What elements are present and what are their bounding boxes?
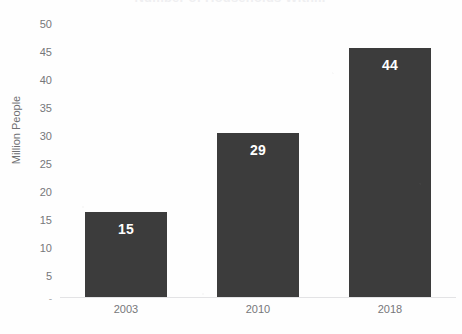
x-tick-label-2018: 2018	[324, 303, 456, 315]
y-tick-label: 40	[14, 75, 52, 86]
y-tick-label: 20	[14, 187, 52, 198]
bar-group-2010: 29	[192, 14, 324, 297]
x-axis-baseline	[60, 297, 456, 298]
y-tick-label: 15	[14, 215, 52, 226]
chart-title: Number of Households With...	[60, 0, 400, 5]
bar-value-label: 29	[217, 142, 299, 158]
y-tick-label: 35	[14, 103, 52, 114]
y-tick-label-zero: -	[14, 293, 52, 304]
y-tick-label: 45	[14, 47, 52, 58]
y-tick-label: 50	[14, 19, 52, 30]
plot-area: 15 29 44	[60, 14, 456, 298]
bar-2010[interactable]: 29	[217, 133, 299, 297]
bar-group-2018: 44	[324, 14, 456, 297]
x-axis-tick-labels: 2003 2010 2018	[60, 303, 456, 323]
y-tick-label: 10	[14, 243, 52, 254]
bar-2018[interactable]: 44	[349, 48, 431, 297]
bar-2003[interactable]: 15	[85, 212, 167, 297]
y-axis-tick-labels: 50 45 40 35 30 25 20 15 10 5 -	[0, 0, 52, 334]
y-tick-label: 5	[14, 271, 52, 282]
y-tick-label: 30	[14, 131, 52, 142]
bar-value-label: 44	[349, 57, 431, 73]
bar-chart: Number of Households With... Million Peo…	[0, 0, 462, 334]
bar-group-2003: 15	[60, 14, 192, 297]
x-tick-label-2003: 2003	[60, 303, 192, 315]
bar-value-label: 15	[85, 221, 167, 237]
x-tick-label-2010: 2010	[192, 303, 324, 315]
y-tick-label: 25	[14, 159, 52, 170]
